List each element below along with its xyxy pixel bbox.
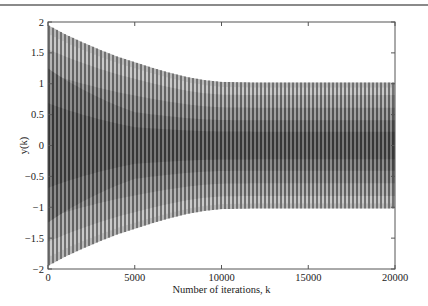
x-tick-label: 10000 bbox=[208, 272, 234, 283]
y-tick-label: 2 bbox=[39, 17, 44, 28]
x-tick-label: 5000 bbox=[124, 272, 145, 283]
y-tick-label: −2 bbox=[33, 264, 44, 275]
y-tick-label: 0.5 bbox=[31, 109, 44, 120]
x-axis-label: Number of iterations, k bbox=[173, 284, 272, 295]
chart: 05000100001500020000 −2−1.5−1−0.500.511.… bbox=[0, 0, 428, 306]
y-tick-label: −1.5 bbox=[25, 233, 44, 244]
y-tick-label: −1 bbox=[33, 202, 44, 213]
signal-spikes bbox=[49, 26, 393, 266]
y-tick-label: 0 bbox=[39, 140, 44, 151]
y-tick-label: −0.5 bbox=[25, 171, 44, 182]
x-tick-label: 0 bbox=[45, 272, 50, 283]
y-axis-label: y(k) bbox=[18, 136, 30, 154]
y-tick-label: 1.5 bbox=[31, 47, 44, 58]
data-series bbox=[48, 25, 395, 266]
x-tick-label: 15000 bbox=[295, 272, 321, 283]
x-tick-label: 20000 bbox=[382, 272, 408, 283]
y-tick-label: 1 bbox=[39, 78, 44, 89]
